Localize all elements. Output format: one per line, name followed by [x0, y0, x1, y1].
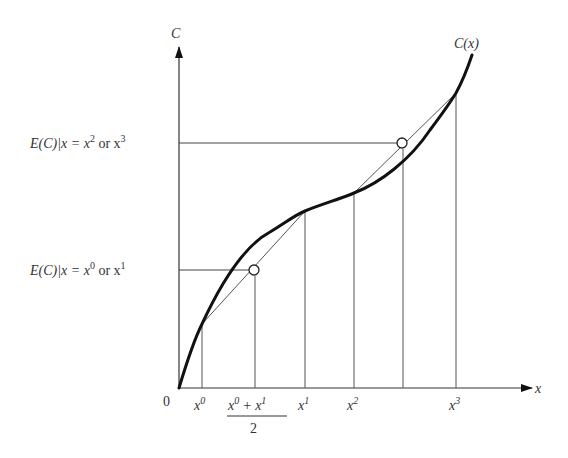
- expected-cost-marker-lower: [249, 265, 259, 275]
- x-axis-label: x: [534, 381, 542, 396]
- curve-label: C(x): [454, 36, 479, 52]
- origin-label: 0: [163, 394, 170, 409]
- svg-text:2: 2: [250, 421, 257, 436]
- svg-text:x0+x1: x0+x1: [227, 395, 266, 413]
- label-prefix: E(C)|x = x: [29, 136, 91, 152]
- label-prefix: E(C)|x = x: [29, 263, 91, 279]
- tick-label-x2: x2: [346, 395, 358, 413]
- vertical-guides: [202, 93, 456, 388]
- tick-label-x0x1-mid: x0+x1 2: [227, 395, 287, 436]
- label-mid: or x: [95, 136, 121, 151]
- cost-function-diagram: C x 0 C(x) E(C)|x = x2 or x3 E(C)|x = x0…: [0, 0, 568, 458]
- label-mid: or x: [95, 263, 121, 278]
- y-axis-label: C: [171, 26, 181, 41]
- tick-label-x1: x1: [297, 395, 309, 413]
- tick-label-x3: x3: [448, 395, 460, 413]
- expected-cost-label-lower: E(C)|x = x0 or x1: [29, 260, 126, 279]
- tick-label-x0: x0: [193, 395, 205, 413]
- label-sup-b: 3: [121, 133, 126, 144]
- cost-curve: [179, 55, 472, 388]
- expected-cost-label-upper: E(C)|x = x2 or x3: [29, 133, 126, 152]
- expected-cost-marker-upper: [397, 138, 407, 148]
- label-sup-b: 1: [121, 260, 126, 271]
